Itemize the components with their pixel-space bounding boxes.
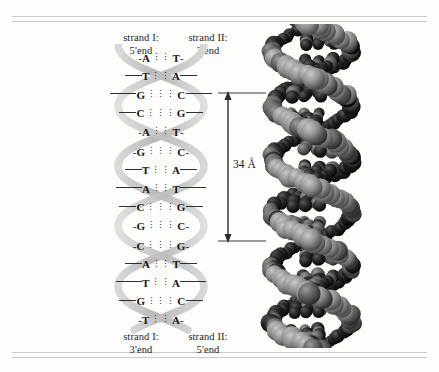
model-atom — [285, 90, 299, 104]
backbone-tick-right — [180, 263, 197, 264]
base-pair-rungs: -A⋮⋮T-T⋮⋮AG⋮⋮⋮CC⋮⋮⋮G-A⋮⋮T--G⋮⋮⋮C-T⋮⋮AA⋮⋮… — [96, 44, 226, 326]
backbone-tick-right — [186, 93, 212, 94]
base-right: A — [172, 70, 180, 82]
bond-dash-right: - — [180, 126, 184, 138]
backbone-tick-right — [186, 206, 203, 207]
bond-dash-right: - — [186, 220, 190, 232]
base-pair: C⋮⋮⋮G — [96, 200, 226, 215]
hydrogen-bonds: ⋮⋮ — [150, 52, 172, 62]
hydrogen-bonds: ⋮⋮ — [150, 259, 172, 269]
hydrogen-bonds: ⋮⋮ — [150, 183, 172, 193]
base-right: T — [173, 183, 181, 195]
base-pair: C⋮⋮⋮G — [96, 106, 226, 121]
base-pair: -G⋮⋮⋮C- — [96, 144, 226, 159]
hydrogen-bonds: ⋮⋮⋮ — [145, 202, 177, 212]
base-right: C — [177, 89, 185, 101]
model-atom — [300, 39, 312, 51]
hydrogen-bonds: ⋮⋮⋮ — [145, 108, 177, 118]
label-strand-i-top-name: strand I: — [123, 32, 159, 43]
hydrogen-bonds: ⋮⋮ — [149, 277, 171, 287]
base-pair: T⋮⋮A — [96, 275, 226, 290]
top-rule-lower — [12, 21, 427, 22]
backbone-tick-right — [180, 169, 197, 170]
base-pair: G⋮⋮⋮C — [96, 87, 226, 102]
base-left: T — [142, 164, 150, 176]
base-left: T — [142, 314, 150, 326]
base-right: T — [173, 52, 181, 64]
base-left: T — [142, 70, 150, 82]
backbone-tick-right — [180, 75, 197, 76]
base-left: A — [142, 183, 150, 195]
model-atom — [297, 143, 310, 156]
bottom-rule-lower — [12, 357, 427, 358]
base-pair: -A⋮⋮T- — [96, 50, 226, 65]
backbone-tick-left — [119, 206, 136, 207]
model-atom — [302, 177, 323, 198]
hydrogen-bonds: ⋮⋮ — [149, 165, 171, 175]
hydrogen-bonds: ⋮⋮⋮ — [145, 146, 177, 156]
base-right: C — [177, 295, 185, 307]
base-right: G — [177, 201, 186, 213]
backbone-tick-left — [116, 187, 142, 188]
model-atom — [286, 199, 300, 213]
space-filling-dna-model — [248, 24, 376, 348]
base-left: G — [136, 146, 145, 158]
base-right: C — [177, 146, 185, 158]
base-pair: T⋮⋮A — [96, 69, 226, 84]
model-atom — [298, 198, 312, 212]
base-pair: T⋮⋮A — [96, 163, 226, 178]
base-right: G — [177, 107, 186, 119]
base-pair: -G⋮⋮⋮C- — [96, 218, 226, 233]
model-atom — [289, 307, 301, 319]
backbone-tick-right — [180, 187, 206, 188]
base-pair: -C⋮⋮⋮G- — [96, 238, 226, 253]
base-pair: -T⋮⋮A- — [96, 312, 226, 327]
hydrogen-bonds: ⋮⋮⋮ — [145, 220, 177, 230]
bond-dash-right: - — [180, 314, 184, 326]
hydrogen-bonds: ⋮⋮ — [149, 314, 171, 324]
base-right: T — [173, 126, 181, 138]
base-right: G — [177, 240, 186, 252]
base-left: G — [136, 89, 145, 101]
backbone-tick-right — [180, 281, 206, 282]
bond-dash-right: - — [186, 146, 190, 158]
base-right: T — [173, 258, 181, 270]
backbone-tick-left — [110, 93, 136, 94]
backbone-tick-left — [119, 300, 136, 301]
base-pair: A⋮⋮T — [96, 181, 226, 196]
label-strand-ii-top-name: strand II: — [188, 32, 227, 43]
hydrogen-bonds: ⋮⋮ — [150, 126, 172, 136]
backbone-tick-left — [116, 281, 142, 282]
backbone-tick-left — [125, 75, 142, 76]
bond-dash-right: - — [186, 240, 190, 252]
backbone-tick-right — [186, 112, 203, 113]
base-pair: -A⋮⋮T- — [96, 124, 226, 139]
base-right: A — [172, 164, 180, 176]
model-atom — [300, 306, 313, 319]
base-left: C — [136, 240, 144, 252]
label-strand-i-bottom-end: 3'end — [112, 343, 170, 356]
base-left: G — [136, 295, 145, 307]
hydrogen-bonds: ⋮⋮⋮ — [145, 89, 177, 99]
base-right: A — [172, 314, 180, 326]
base-left: G — [136, 220, 145, 232]
model-atom — [301, 121, 323, 143]
base-left: C — [136, 201, 144, 213]
hydrogen-bonds: ⋮⋮⋮ — [145, 296, 177, 306]
model-atom — [303, 68, 325, 90]
model-atom — [298, 282, 321, 305]
hydrogen-bonds: ⋮⋮⋮ — [145, 240, 177, 250]
base-left: A — [142, 52, 150, 64]
bond-dash-right: - — [180, 52, 184, 64]
model-atom — [300, 229, 322, 251]
base-left: A — [142, 126, 150, 138]
backbone-tick-right — [186, 300, 203, 301]
backbone-tick-left — [125, 169, 142, 170]
base-pair: G⋮⋮⋮C — [96, 294, 226, 309]
hydrogen-bonds: ⋮⋮ — [149, 71, 171, 81]
top-rule-upper — [12, 16, 427, 17]
base-left: A — [142, 258, 150, 270]
model-atom — [298, 91, 310, 103]
label-strand-ii-bottom-end: 5'end — [177, 343, 239, 356]
backbone-tick-left — [125, 263, 142, 264]
